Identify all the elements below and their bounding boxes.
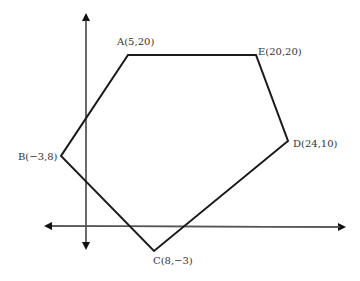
x-axis-left-arrow — [48, 226, 340, 227]
vertex-label-e: E(20,20) — [258, 46, 302, 57]
vertex-label-b: B(−3,8) — [18, 151, 58, 162]
vertex-label-d: D(24,10) — [293, 138, 338, 149]
vertex-label-c: C(8,−3) — [153, 255, 193, 266]
coordinate-diagram: A(5,20) E(20,20) D(24,10) C(8,−3) B(−3,8… — [0, 0, 360, 281]
pentagon-ABCDE — [61, 55, 288, 251]
vertex-label-a: A(5,20) — [116, 36, 154, 47]
